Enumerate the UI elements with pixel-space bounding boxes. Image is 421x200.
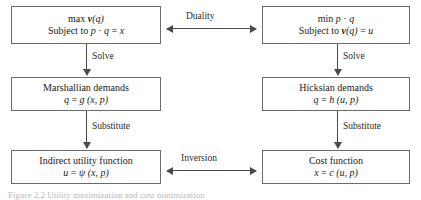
substitute-left-arrow [86, 111, 87, 148]
indirect-utility-title: Indirect utility function [39, 155, 132, 167]
duality-arrow [167, 28, 256, 29]
cost-function-title: Cost function [309, 155, 363, 167]
substitute-right-arrow [337, 111, 338, 148]
cost-min-constraint: Subject to v(q) = u [299, 25, 374, 37]
solve-left-label: Solve [92, 51, 114, 61]
marshallian-title: Marshallian demands [43, 82, 129, 94]
figure-caption: Figure 2.2 Utility maximization and cost… [8, 190, 308, 200]
hicksian-title: Hicksian demands [299, 82, 373, 94]
substitute-left-label: Substitute [92, 121, 130, 131]
box-cost-function: Cost function x = c (u, p) [262, 150, 410, 184]
marshallian-equation: q = g (x, p) [64, 94, 108, 106]
solve-right-arrow [337, 44, 338, 75]
hicksian-equation: q = h (u, p) [314, 94, 359, 106]
solve-right-label: Solve [343, 51, 365, 61]
solve-left-arrow [86, 44, 87, 75]
box-cost-minimization: min p · q Subject to v(q) = u [262, 6, 410, 44]
cost-min-objective: min p · q [318, 13, 354, 25]
utility-max-objective: max v(q) [68, 13, 104, 25]
box-utility-maximization: max v(q) Subject to p · q = x [11, 6, 161, 44]
box-hicksian-demands: Hicksian demands q = h (u, p) [262, 77, 410, 111]
figure-canvas: max v(q) Subject to p · q = x min p · q … [0, 0, 421, 200]
box-indirect-utility-function: Indirect utility function u = ψ (x, p) [11, 150, 161, 184]
cost-function-equation: x = c (u, p) [314, 167, 358, 179]
duality-label: Duality [186, 11, 215, 21]
inversion-arrow [167, 170, 256, 171]
utility-max-constraint: Subject to p · q = x [48, 25, 124, 37]
box-marshallian-demands: Marshallian demands q = g (x, p) [11, 77, 161, 111]
inversion-label: Inversion [181, 153, 217, 163]
substitute-right-label: Substitute [343, 121, 381, 131]
indirect-utility-equation: u = ψ (x, p) [63, 167, 108, 179]
